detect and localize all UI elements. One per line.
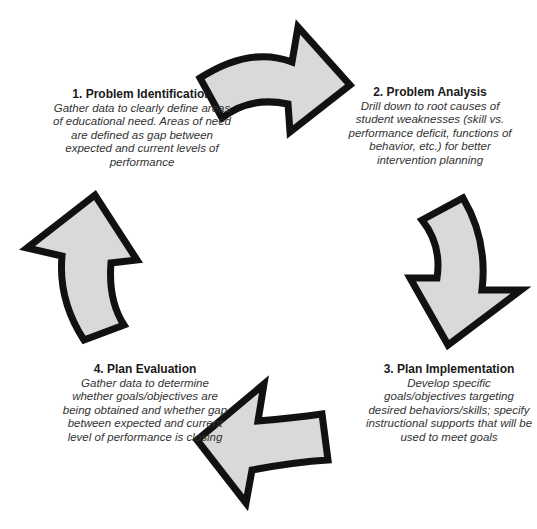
step-description: Gather data to clearly define areas of e… [48, 102, 236, 170]
step-problem-identification: 1. Problem Identification Gather data to… [48, 88, 236, 170]
step-title: 2. Problem Analysis [345, 86, 515, 100]
curved-arrow-down-icon [410, 198, 521, 345]
step-title: 1. Problem Identification [48, 88, 236, 102]
curved-arrow-up-icon [27, 195, 137, 340]
step-description: Develop specific goals/objectives target… [365, 377, 533, 445]
step-description: Drill down to root causes of student wea… [345, 100, 515, 168]
problem-solving-cycle-diagram: 1. Problem Identification Gather data to… [0, 0, 537, 529]
step-title: 3. Plan Implementation [365, 363, 533, 377]
step-problem-analysis: 2. Problem Analysis Drill down to root c… [345, 86, 515, 168]
step-description: Gather data to determine whether goals/o… [60, 377, 230, 445]
cycle-arrows [0, 0, 537, 529]
step-plan-implementation: 3. Plan Implementation Develop specific … [365, 363, 533, 445]
step-plan-evaluation: 4. Plan Evaluation Gather data to determ… [60, 363, 230, 445]
step-title: 4. Plan Evaluation [60, 363, 230, 377]
